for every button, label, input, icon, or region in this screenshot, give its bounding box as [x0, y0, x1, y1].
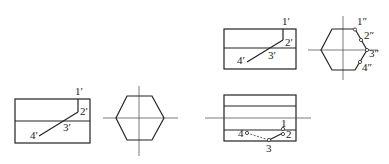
- label-4-double-prime: 4″: [362, 61, 372, 73]
- label-4-prime: 4′: [30, 129, 38, 141]
- label-1-double-prime: 1″: [357, 15, 367, 27]
- label-4: 4: [238, 127, 244, 139]
- label-3-prime: 3′: [63, 121, 71, 133]
- label-4-prime: 4′: [237, 54, 245, 66]
- label-1-prime: 1′: [282, 15, 290, 27]
- projection-diagram: 1′ 2′ 3′ 4′ 1′ 2′ 3′ 4′ 1″ 2″ 3″ 4″: [0, 0, 389, 164]
- label-2-prime: 2′: [80, 105, 88, 117]
- right-top-view: 1 2 3 4: [205, 95, 311, 154]
- label-3-double-prime: 3″: [369, 47, 379, 59]
- right-side-view-hexagon: 1″ 2″ 3″ 4″: [308, 15, 379, 80]
- label-2-prime: 2′: [285, 36, 293, 48]
- left-side-view-hexagon: [103, 86, 178, 156]
- label-3-prime: 3′: [268, 49, 276, 61]
- label-2: 2: [286, 128, 292, 140]
- label-2-double-prime: 2″: [364, 29, 374, 41]
- label-1-prime: 1′: [75, 85, 83, 97]
- left-front-view: 1′ 2′ 3′ 4′: [15, 85, 90, 143]
- right-front-view: 1′ 2′ 3′ 4′: [224, 15, 296, 69]
- label-3: 3: [266, 142, 272, 154]
